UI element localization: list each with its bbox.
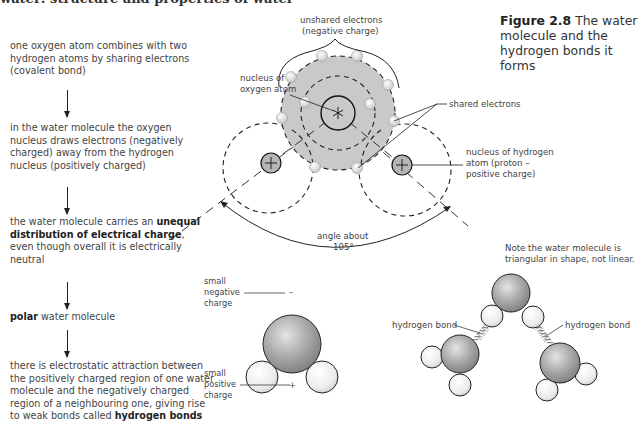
note-line-2: triangular in shape, not linear. [505, 254, 635, 264]
label-small-negative-2: negative [204, 287, 240, 297]
note-line-1: Note the water molecule is [505, 243, 621, 253]
hydrogen-bond-right-hatch [535, 326, 550, 342]
label-nucleus-hydrogen-1: nucleus of hydrogen [466, 147, 554, 157]
label-angle-value: 105° [333, 242, 354, 252]
label-hydrogen-bond-right: hydrogen bond [565, 320, 630, 330]
label-nucleus-oxygen-2: oxygen atom [240, 84, 296, 94]
label-hydrogen-bond-left: hydrogen bond [392, 320, 457, 330]
label-unshared-electrons: unshared electrons [300, 15, 383, 25]
label-small-negative-1: small [204, 276, 226, 286]
hydrogen-nucleus-right [392, 155, 412, 175]
label-small-negative-3: charge [204, 298, 232, 308]
positive-sign-icon: + [289, 380, 296, 390]
hydrogen-nucleus-left [261, 153, 281, 173]
label-nucleus-hydrogen-3: positive charge) [466, 169, 535, 179]
label-small-positive-1: small [204, 368, 226, 378]
hydrogen-bond-cluster [421, 274, 597, 401]
negative-sign-icon: – [289, 287, 293, 297]
label-shared-electrons: shared electrons [449, 99, 521, 109]
hydrogen-bond-left [474, 324, 488, 341]
leader-line-hbond-right [546, 325, 563, 336]
label-negative-charge: (negative charge) [302, 26, 379, 36]
label-nucleus-oxygen-1: nucleus of [240, 73, 285, 83]
leader-line-hbond-left [454, 325, 480, 333]
label-angle-about: angle about [317, 231, 369, 241]
label-small-positive-2: positive [204, 379, 236, 389]
label-small-positive-3: charge [204, 390, 232, 400]
label-nucleus-hydrogen-2: atom (proton – [466, 158, 530, 168]
